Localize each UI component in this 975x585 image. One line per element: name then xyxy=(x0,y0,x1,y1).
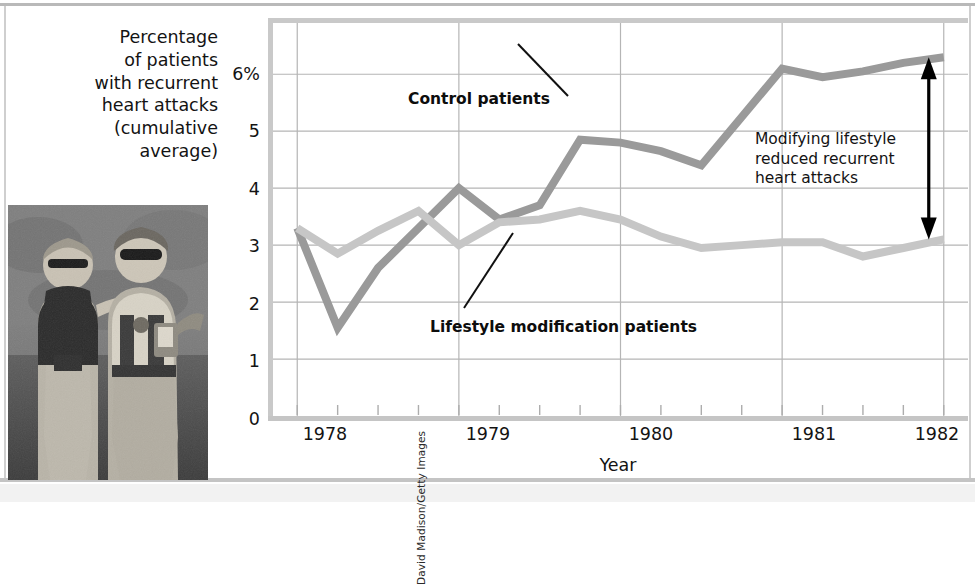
difference-callout-line-1: Modifying lifestyle xyxy=(755,130,930,150)
difference-callout-line-3: heart attacks xyxy=(755,169,930,189)
y-axis-title-line-2: of patients xyxy=(38,49,218,72)
control-series-label: Control patients xyxy=(408,90,550,108)
plot-frame-top xyxy=(268,18,968,23)
y-axis-title-line-1: Percentage xyxy=(38,26,218,49)
x-tick-1980: 1980 xyxy=(606,424,696,444)
y-axis-title: Percentage of patients with recurrent he… xyxy=(38,26,218,163)
y-tick-2: 2 xyxy=(200,294,260,314)
x-tick-1978: 1978 xyxy=(280,424,370,444)
y-axis-title-line-5: (cumulative xyxy=(38,117,218,140)
footer-band xyxy=(0,484,975,502)
y-tick-6: 6% xyxy=(200,64,260,84)
y-axis-title-line-6: average) xyxy=(38,140,218,163)
y-tick-0: 0 xyxy=(200,409,260,429)
top-rule xyxy=(0,3,975,6)
y-tick-labels: 6% 5 4 3 2 1 0 xyxy=(198,0,260,440)
y-tick-1: 1 xyxy=(200,351,260,371)
y-tick-3: 3 xyxy=(200,236,260,256)
left-rule xyxy=(4,6,6,480)
y-axis-title-line-3: with recurrent xyxy=(38,72,218,95)
y-tick-4: 4 xyxy=(200,179,260,199)
plot-frame-left xyxy=(268,18,273,421)
difference-callout-line-2: reduced recurrent xyxy=(755,150,930,170)
x-tick-1979: 1979 xyxy=(443,424,533,444)
plot-area xyxy=(268,18,968,421)
x-tick-labels: 1978 1979 1980 1981 1982 xyxy=(268,424,968,454)
line-chart-svg xyxy=(268,18,968,421)
x-tick-1981: 1981 xyxy=(769,424,859,444)
lifestyle-series-label: Lifestyle modification patients xyxy=(430,318,697,336)
y-axis-title-line-4: heart attacks xyxy=(38,94,218,117)
y-tick-5: 5 xyxy=(200,121,260,141)
x-tick-1982: 1982 xyxy=(892,424,975,444)
difference-callout: Modifying lifestyle reduced recurrent he… xyxy=(755,130,930,189)
plot-frame-bottom xyxy=(268,416,968,421)
right-rule xyxy=(969,6,971,480)
anglers-photo xyxy=(8,205,208,480)
x-axis-title: Year xyxy=(268,455,968,475)
